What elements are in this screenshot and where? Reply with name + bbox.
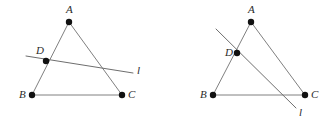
right-line-l: [216, 29, 296, 108]
right-label-A: A: [247, 3, 255, 15]
geometry-figure-canvas: A B C D l A B C D l: [0, 0, 336, 124]
left-label-C: C: [128, 88, 136, 100]
left-label-A: A: [65, 3, 73, 15]
left-label-D: D: [35, 44, 44, 56]
left-label-B: B: [19, 88, 26, 100]
left-point-C: [119, 92, 125, 98]
right-point-D: [234, 50, 240, 56]
left-point-B: [29, 92, 35, 98]
right-point-C: [302, 92, 308, 98]
right-label-B: B: [200, 88, 207, 100]
right-point-A: [248, 19, 254, 25]
right-label-C: C: [311, 88, 319, 100]
right-label-D: D: [224, 46, 233, 58]
right-point-B: [210, 92, 216, 98]
left-point-D: [43, 58, 49, 64]
left-point-A: [66, 19, 72, 25]
left-figure: A B C D l: [0, 0, 168, 124]
right-segment-AC: [251, 22, 305, 95]
left-line-l: [26, 56, 133, 73]
right-label-line-l: l: [299, 106, 302, 118]
left-label-line-l: l: [137, 64, 140, 76]
left-segment-AB: [32, 22, 69, 95]
right-figure: A B C D l: [168, 0, 336, 124]
left-segment-AC: [69, 22, 122, 95]
